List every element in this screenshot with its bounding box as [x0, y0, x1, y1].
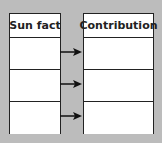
contribution-cell-3[interactable]	[84, 102, 153, 134]
contribution-table: Contribution	[83, 13, 154, 134]
sun-fact-cell-1[interactable]	[10, 38, 60, 70]
contribution-header: Contribution	[84, 14, 153, 38]
contribution-cell-2[interactable]	[84, 70, 153, 102]
sun-fact-table: Sun fact	[9, 13, 61, 134]
sun-fact-header: Sun fact	[10, 14, 60, 38]
contribution-cell-1[interactable]	[84, 38, 153, 70]
right-arrow-icon	[60, 79, 83, 89]
sun-fact-cell-3[interactable]	[10, 102, 60, 134]
right-arrow-icon	[60, 111, 83, 121]
sun-fact-cell-2[interactable]	[10, 70, 60, 102]
right-arrow-icon	[60, 47, 83, 57]
